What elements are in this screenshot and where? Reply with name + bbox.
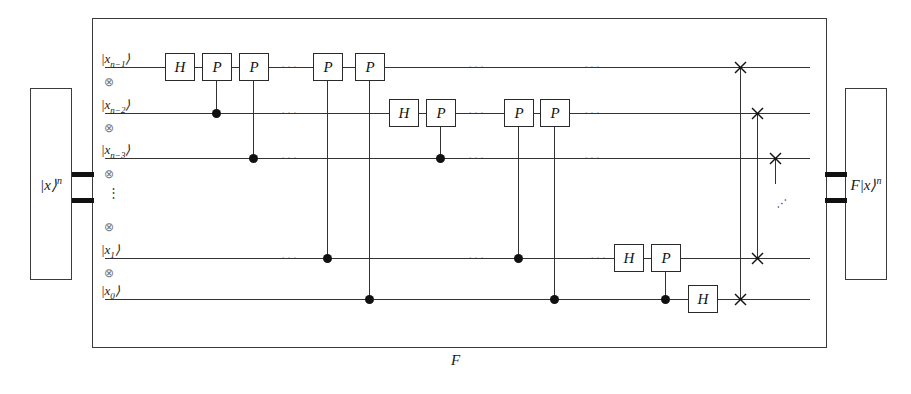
control-line-r1p3 xyxy=(327,81,328,259)
qubit-wire-n-3 xyxy=(105,158,810,159)
swap-x-top-2[interactable] xyxy=(751,107,764,120)
control-dot-r1p1 xyxy=(212,109,221,118)
control-dot-r4p1 xyxy=(661,295,670,304)
control-line-r2p3 xyxy=(554,127,555,300)
vertical-ellipsis: ⋮ xyxy=(107,190,120,196)
row1-ellipsis-3: ··· xyxy=(584,60,602,73)
gate-h-row2[interactable]: H xyxy=(389,99,419,127)
control-dot-r2p3 xyxy=(550,295,559,304)
tensor-symbol-2: ⊗ xyxy=(104,122,114,134)
gate-p-row1-2[interactable]: P xyxy=(239,53,269,81)
wire-label-1: |x1⟩ xyxy=(101,242,120,260)
row1-ellipsis-2: ··· xyxy=(468,60,486,73)
swap-x-bottom-1[interactable] xyxy=(734,293,747,306)
gate-p-row4-1[interactable]: P xyxy=(651,244,681,272)
wire-label-n-2: |xn−2⟩ xyxy=(101,97,130,115)
output-bus-top xyxy=(825,172,847,177)
row2-ellipsis-2: ··· xyxy=(468,106,486,119)
gate-p-row2-2[interactable]: P xyxy=(504,99,534,127)
swap-x-top-3[interactable] xyxy=(769,152,782,165)
swap-line-2 xyxy=(757,113,758,258)
gate-h-row4[interactable]: H xyxy=(614,244,644,272)
wire-label-n-1: |xn−1⟩ xyxy=(101,51,130,69)
gate-p-row2-1[interactable]: P xyxy=(426,99,456,127)
gate-h-row1[interactable]: H xyxy=(165,53,195,81)
swap-line-1 xyxy=(740,67,741,299)
gate-p-row1-4[interactable]: P xyxy=(355,53,385,81)
input-bus-bottom xyxy=(72,198,94,203)
input-state-label: |x⟩n xyxy=(40,175,62,194)
control-dot-r2p1 xyxy=(436,154,445,163)
row4-ellipsis-1: ··· xyxy=(281,251,299,264)
output-bus-bottom xyxy=(825,198,847,203)
output-state-box: F|x⟩n xyxy=(845,88,887,280)
qubit-wire-n-2 xyxy=(105,113,810,114)
quantum-circuit-diagram: |x⟩n F|x⟩n |xn−1⟩ |xn−2⟩ |xn−3⟩ |x1⟩ |x0… xyxy=(0,0,911,394)
row3-ellipsis-3: ··· xyxy=(584,151,602,164)
row3-ellipsis-2: ··· xyxy=(468,151,486,164)
control-dot-r1p3 xyxy=(323,254,332,263)
swap-x-bottom-2[interactable] xyxy=(751,252,764,265)
tensor-symbol-3: ⊗ xyxy=(104,168,114,180)
control-line-r2p2 xyxy=(518,127,519,259)
tensor-symbol-1: ⊗ xyxy=(104,76,114,88)
circuit-label-f: F xyxy=(0,352,911,369)
output-state-label: F|x⟩n xyxy=(851,175,882,194)
qubit-wire-1 xyxy=(105,258,810,259)
tensor-symbol-4: ⊗ xyxy=(104,221,114,233)
input-state-box: |x⟩n xyxy=(30,88,72,280)
gate-h-row5[interactable]: H xyxy=(688,285,718,313)
row2-ellipsis-3: ··· xyxy=(584,106,602,119)
gate-p-row2-3[interactable]: P xyxy=(540,99,570,127)
row4-ellipsis-2: ··· xyxy=(468,251,486,264)
swap-x-top-1[interactable] xyxy=(734,61,747,74)
wire-label-0: |x0⟩ xyxy=(101,283,120,301)
control-line-r1p2 xyxy=(253,81,254,159)
gate-p-row1-3[interactable]: P xyxy=(313,53,343,81)
row1-ellipsis-1: ··· xyxy=(281,60,299,73)
control-line-r1p4 xyxy=(369,81,370,300)
input-bus-top xyxy=(72,172,94,177)
wire-label-n-3: |xn−3⟩ xyxy=(101,142,130,160)
tensor-symbol-5: ⊗ xyxy=(104,267,114,279)
control-dot-r1p4 xyxy=(365,295,374,304)
control-dot-r2p2 xyxy=(514,254,523,263)
row2-ellipsis-1: ··· xyxy=(281,106,299,119)
row4-ellipsis-3: ··· xyxy=(590,251,608,264)
row3-ellipsis-1: ··· xyxy=(281,151,299,164)
gate-p-row1-1[interactable]: P xyxy=(202,53,232,81)
control-dot-r1p2 xyxy=(249,154,258,163)
